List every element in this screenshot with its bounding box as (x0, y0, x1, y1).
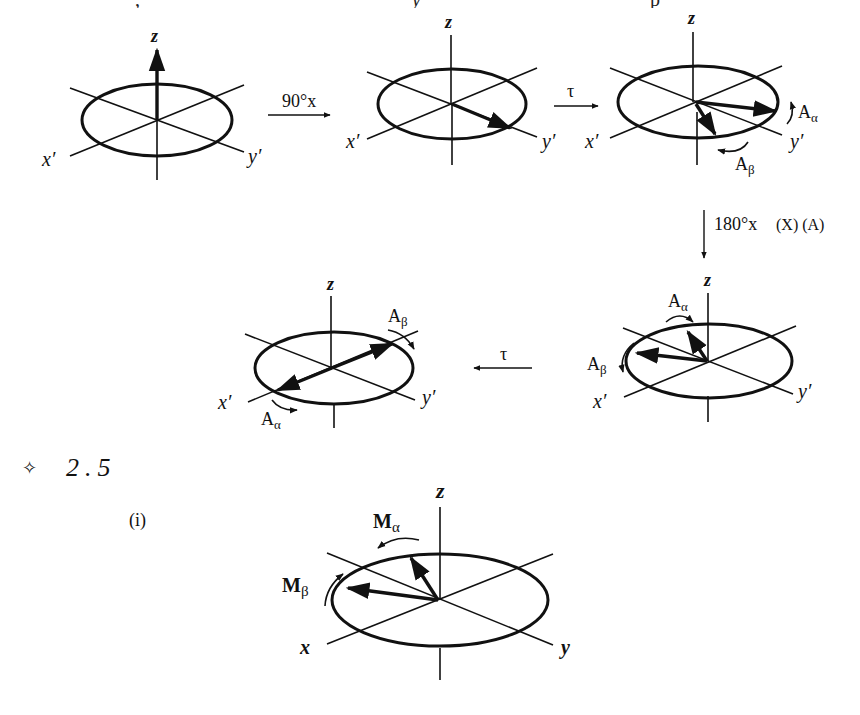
label-M-beta: Mβ (282, 574, 309, 599)
z-axis-label: z (444, 12, 452, 32)
vector-A-alpha (278, 368, 332, 390)
panel-5-refocused-echo: z x′ y′ Aβ Aα (217, 274, 436, 432)
label-A-beta: Aβ (735, 154, 755, 177)
label-A-beta: Aβ (388, 306, 408, 329)
x-axis-label: x′ (41, 148, 56, 170)
y-axis-label: y′ (788, 130, 804, 153)
x-axis-label: x′ (592, 390, 607, 412)
pulse-axis-note: (X) (A) (776, 216, 824, 234)
z-axis-label: z (435, 478, 445, 503)
label-A-beta: Aβ (587, 354, 607, 377)
pulse-label-90x: 90°x (282, 91, 316, 111)
figure-b-magnetization: z x y Mα Mβ (282, 478, 570, 680)
label-M-alpha: Mα (373, 510, 400, 535)
rotation-arc-alpha-icon (378, 538, 419, 548)
y-axis-label: y′ (246, 145, 262, 168)
panel-2-vector-along-y: z x′ y′ (345, 12, 556, 165)
transition-180x: 180°x (X) (A) (704, 210, 824, 258)
vector-M-alpha (411, 558, 438, 600)
rotation-arc-beta-icon (388, 330, 414, 349)
x-axis-label: x′ (217, 391, 232, 413)
rotation-arc-alpha-icon (272, 400, 297, 410)
part-label: (i) (129, 510, 146, 531)
panel-1-initial-z-vector: z x′ y′ (41, 26, 262, 180)
transition-tau-2: τ (474, 344, 532, 368)
y-axis-label: y′ (420, 386, 436, 409)
y-axis-label: y′ (796, 380, 812, 403)
x-axis-label: x (299, 636, 310, 658)
panel-3-dephasing: z x′ y′ Aα Aβ (584, 8, 818, 177)
transition-90x: 90°x (268, 91, 330, 115)
z-axis-label: z (687, 8, 695, 28)
y-axis-label: y (559, 636, 570, 659)
rotation-arc-alpha-icon (666, 316, 693, 322)
vector-M-beta (348, 588, 438, 600)
x-axis-label: x′ (584, 130, 599, 152)
x-axis-label: x′ (345, 130, 360, 152)
z-axis-label: z (703, 270, 711, 290)
four-point-star-icon: ✧ (22, 458, 37, 478)
transition-tau-1: τ (554, 81, 598, 106)
spin-vector-diagram: z x′ y′ 90°x z x′ y′ τ z x′ y′ (0, 0, 860, 715)
delay-label-tau: τ (500, 344, 507, 364)
z-axis-label: z (150, 26, 158, 46)
panel-4-after-180: z x′ y′ Aα Aβ (587, 270, 812, 422)
rotation-arc-beta-icon (718, 142, 748, 151)
z-axis-label: z (326, 274, 334, 294)
rotation-arc-alpha-icon (787, 102, 792, 124)
y-axis-label: y′ (540, 130, 556, 153)
delay-label-tau: τ (567, 81, 574, 101)
magnetization-vector-y (452, 104, 510, 128)
vector-A-beta (332, 344, 392, 368)
label-A-alpha: Aα (668, 291, 688, 314)
pulse-label-180x: 180°x (714, 214, 757, 234)
section-heading: ✧ 2.5 (i) (22, 453, 146, 531)
label-A-alpha: Aα (261, 409, 281, 432)
label-A-alpha: Aα (798, 102, 818, 125)
section-number: 2.5 (66, 453, 117, 482)
